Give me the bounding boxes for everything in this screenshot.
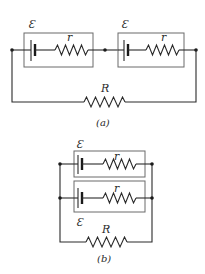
resistor-R-label: R	[100, 82, 109, 95]
right-node-bottom	[150, 196, 154, 200]
wire	[12, 50, 84, 102]
resistor-R-b	[86, 237, 127, 247]
cell-1-r-label: r	[67, 31, 73, 44]
panel-a: Ɛ r Ɛ r R (a)	[10, 18, 198, 128]
wire	[125, 50, 196, 102]
resistor-R-b-label: R	[101, 223, 110, 236]
resistor-r1	[55, 45, 88, 55]
right-node-top	[150, 162, 154, 166]
left-node-bottom	[58, 196, 62, 200]
cell-1-emf-label: Ɛ	[28, 18, 36, 31]
junction-node	[103, 48, 107, 52]
caption-b: (b)	[97, 253, 111, 264]
wire	[127, 164, 152, 242]
resistor-R	[84, 97, 125, 107]
left-node-top	[58, 162, 62, 166]
circuit-diagram: Ɛ r Ɛ r R (a) Ɛ r	[0, 0, 205, 274]
cell-2-emf-label: Ɛ	[121, 18, 129, 31]
cell-top-emf-label: Ɛ	[76, 138, 84, 151]
cell-bottom-emf-label: Ɛ	[76, 216, 84, 229]
cell-2-r-label: r	[161, 31, 167, 44]
resistor-r2	[146, 45, 179, 55]
cell-bottom-box	[74, 181, 145, 212]
resistor-r-top	[103, 159, 136, 169]
cell-bottom-r-label: r	[114, 182, 120, 195]
caption-a: (a)	[96, 117, 110, 128]
panel-b: Ɛ r r Ɛ R (b)	[58, 138, 154, 264]
resistor-r-bottom	[103, 193, 136, 203]
